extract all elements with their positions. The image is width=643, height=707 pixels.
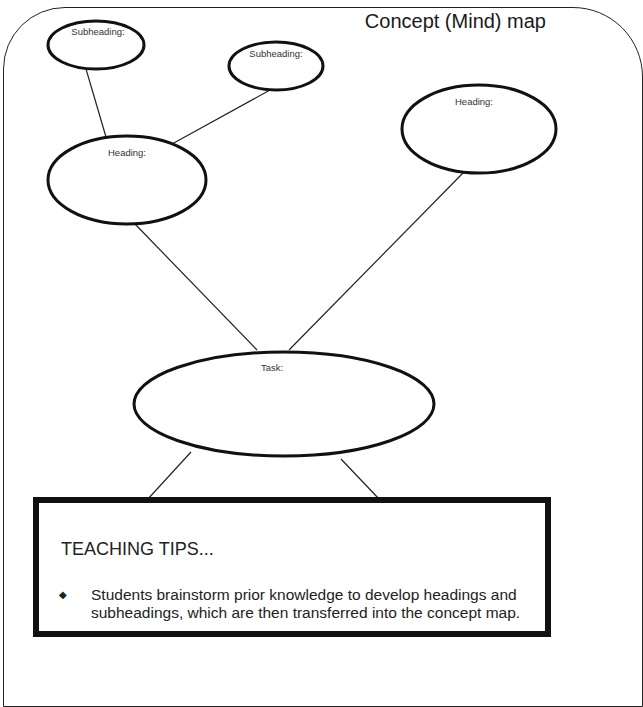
subheading-1-label: Subheading:: [71, 26, 124, 37]
teaching-tip-item: ◆ Students brainstorm prior knowledge to…: [57, 586, 537, 622]
teaching-tip-text: Students brainstorm prior knowledge to d…: [91, 586, 520, 621]
subheading-2-label: Subheading:: [249, 48, 302, 59]
teaching-tips-box: TEACHING TIPS... ◆ Students brainstorm p…: [33, 497, 551, 637]
connector-heading-left-task: [135, 224, 257, 350]
teaching-tips-list: ◆ Students brainstorm prior knowledge to…: [57, 586, 537, 622]
node-ellipses: [48, 21, 556, 456]
task-label: Task:: [261, 362, 283, 373]
connector-task-left-down: [147, 452, 191, 500]
connector-sub2-heading: [172, 90, 270, 144]
connector-task-right-down: [341, 459, 380, 500]
teaching-tips-heading: TEACHING TIPS...: [61, 539, 214, 560]
connector-sub1-heading: [86, 69, 106, 137]
heading-right-label: Heading:: [455, 96, 493, 107]
heading-left-label: Heading:: [108, 147, 146, 158]
diamond-bullet-icon: ◆: [59, 586, 67, 604]
page-title: Concept (Mind) map: [365, 10, 546, 33]
connector-heading-right-task: [289, 173, 463, 350]
task-node[interactable]: [134, 352, 434, 456]
